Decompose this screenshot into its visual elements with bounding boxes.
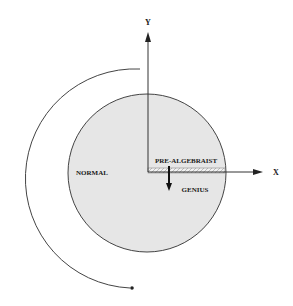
genius-label: GENIUS [182, 186, 209, 194]
normal-label: NORMAL [76, 169, 108, 177]
y-axis-arrow-icon [145, 32, 151, 42]
pre-algebraist-label: PRE-ALGEBRAIST [155, 157, 218, 165]
arc-end-dot [130, 286, 134, 290]
diagram-canvas: Y X NORMAL PRE-ALGEBRAIST GENIUS [0, 0, 293, 306]
x-axis-label: X [273, 168, 279, 177]
y-axis-label: Y [145, 18, 151, 27]
x-axis-arrow-icon [253, 169, 263, 175]
